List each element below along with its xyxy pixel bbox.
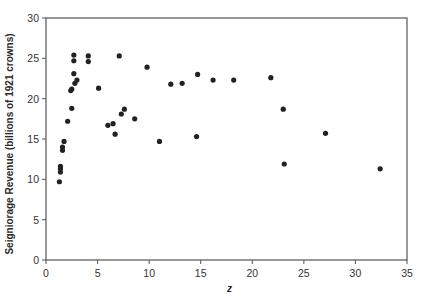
data-point [69, 106, 74, 111]
data-point [65, 119, 70, 124]
x-tick-label: 35 [401, 267, 413, 279]
data-point [282, 161, 287, 166]
data-point [105, 123, 110, 128]
x-tick-label: 25 [298, 267, 310, 279]
data-point [113, 132, 118, 137]
data-point [132, 116, 137, 121]
data-point [71, 58, 76, 63]
plot-frame [46, 18, 407, 260]
y-tick-label: 15 [27, 133, 39, 145]
x-tick-label: 5 [95, 267, 101, 279]
data-point [323, 131, 328, 136]
data-point [119, 111, 124, 116]
data-point [210, 78, 215, 83]
x-axis-title: z [226, 283, 232, 294]
x-tick-label: 0 [43, 267, 49, 279]
data-point [71, 53, 76, 58]
x-tick-label: 20 [246, 267, 258, 279]
data-point [268, 75, 273, 80]
y-axis-title: Seigniorage Revenue (billions of 1921 cr… [4, 33, 15, 254]
data-point [61, 139, 66, 144]
data-point [117, 53, 122, 58]
data-point [69, 86, 74, 91]
scatter-chart: 051015202530 05101520253035 z Seigniorag… [0, 0, 425, 300]
data-points [57, 53, 383, 185]
y-tick-label: 5 [33, 214, 39, 226]
data-point [71, 71, 76, 76]
data-point [157, 139, 162, 144]
x-tick-label: 30 [350, 267, 362, 279]
y-tick-label: 10 [27, 173, 39, 185]
data-point [180, 81, 185, 86]
data-point [86, 53, 91, 58]
data-point [110, 121, 115, 126]
x-tick-label: 15 [195, 267, 207, 279]
y-axis: 051015202530 [27, 12, 46, 266]
y-tick-label: 0 [33, 254, 39, 266]
x-axis: 05101520253035 [43, 260, 413, 279]
data-point [378, 166, 383, 171]
data-point [194, 134, 199, 139]
y-tick-label: 25 [27, 52, 39, 64]
data-point [144, 65, 149, 70]
y-tick-label: 30 [27, 12, 39, 24]
data-point [281, 107, 286, 112]
data-point [58, 164, 63, 169]
x-tick-label: 10 [143, 267, 155, 279]
data-point [60, 144, 65, 149]
data-point [122, 107, 127, 112]
data-point [96, 86, 101, 91]
data-point [74, 78, 79, 83]
data-point [57, 179, 62, 184]
y-tick-label: 20 [27, 93, 39, 105]
data-point [86, 59, 91, 64]
data-point [168, 82, 173, 87]
data-point [231, 78, 236, 83]
data-point [195, 72, 200, 77]
